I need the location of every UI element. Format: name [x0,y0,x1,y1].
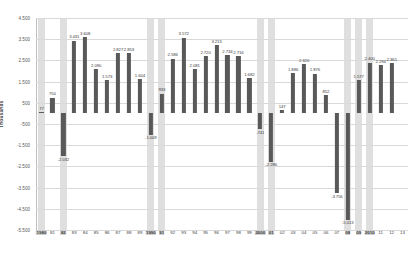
bar-group: -2.032 [58,18,69,230]
bar [335,113,339,193]
bar-group: 147 [277,18,288,230]
x-axis-tick-label: 09 [356,230,362,235]
bar [193,69,197,113]
bar-value-label: -2.286 [265,162,277,167]
y-axis-tick-label: -2.500 [0,164,30,169]
bar-group: 1.886 [288,18,299,230]
x-axis-tick-label: 07 [334,230,339,235]
x-axis-tick-label: 86 [105,230,110,235]
bar-group: 2.734 [222,18,233,230]
bar-group: -741 [255,18,266,230]
x-axis-tick-label: 92 [170,230,175,235]
bar-group: -2.286 [266,18,277,230]
bar-group: 3.608 [80,18,91,230]
bar-group: 3.213 [211,18,222,230]
bar-value-label: 2.720 [200,50,210,55]
bar-value-label: -2.032 [58,157,70,162]
x-axis-tick-label: 88 [127,230,132,235]
bar-group: 2.720 [200,18,211,230]
x-axis-tick-label: 08 [345,230,351,235]
x-axis-tick-label: 85 [94,230,99,235]
bar-group: 2.081 [189,18,200,230]
x-axis-tick-label: 98 [236,230,241,235]
x-axis-tick-label: 06 [323,230,328,235]
bar-value-label: 3.572 [179,31,189,36]
bar [50,98,54,114]
bar [389,63,393,113]
x-axis-tick-label: 03 [291,230,296,235]
bar-value-label: 2.586 [168,52,178,57]
x-axis-tick-label: 1980 [36,230,47,235]
bar-group: -5.013 [342,18,353,230]
bar [149,113,153,134]
bar-group: 2.827 [113,18,124,230]
bar [291,73,295,113]
bar-value-label: 2.734 [222,49,232,54]
bar [368,63,372,114]
bar-group: 852 [320,18,331,230]
bar [105,80,109,113]
bar-group: 2.090 [91,18,102,230]
bar-group: 750 [47,18,58,230]
bar-group: 2.320 [299,18,310,230]
bar-group: 933 [156,18,167,230]
bar-value-label: 2.294 [376,59,386,64]
bar [61,113,65,156]
bar-value-label: 147 [279,104,286,109]
bar-value-label: -5.013 [342,220,354,225]
bar [182,38,186,114]
bar-value-label: 2.365 [386,57,396,62]
bar-value-label: 2.090 [91,63,101,68]
x-axis-tick-label: 87 [116,230,121,235]
bar-value-label: 3.213 [211,39,221,44]
x-axis-tick-label: 02 [280,230,285,235]
y-axis-title: Thousands [0,101,4,128]
x-axis-tick-label: 1990 [146,230,157,235]
bar-value-label: 852 [323,89,330,94]
bar-group: 1.573 [102,18,113,230]
bar-group: 2.586 [167,18,178,230]
bar-group: 77 [36,18,47,230]
x-axis-tick-label: 93 [181,230,186,235]
bar-value-label: 2.320 [299,58,309,63]
bar-chart: 4.5003.5002.5001.500500-500-1.500-2.500-… [0,0,419,257]
bar-value-label: 1.682 [244,72,254,77]
bar-group: -1.009 [145,18,156,230]
bar-group: 1.682 [244,18,255,230]
y-axis-tick-label: -3.500 [0,185,30,190]
x-axis-tick-label: 94 [192,230,197,235]
x-axis-tick-label: 11 [378,230,383,235]
bar-value-label: 1.876 [310,67,320,72]
bar [280,110,284,113]
x-axis-tick-label: 84 [83,230,88,235]
bar [346,113,350,219]
bar-value-label: 1.604 [135,73,145,78]
bar-value-label: 3.431 [69,34,79,39]
bar [160,94,164,114]
bar-group: 3.572 [178,18,189,230]
bar [171,59,175,114]
y-axis-labels: 4.5003.5002.5001.500500-500-1.500-2.500-… [0,18,33,230]
x-axis-tick-label: 99 [247,230,252,235]
bar-group: 1.876 [310,18,321,230]
bar [225,55,229,113]
x-axis-tick-label: 12 [389,230,394,235]
bar-value-label: 3.608 [80,31,90,36]
bar [39,112,43,114]
bar [324,95,328,113]
x-axis-tick-label: 01 [268,230,274,235]
y-axis-tick-label: 4.500 [0,16,30,21]
bar-group: 2.716 [233,18,244,230]
y-axis-tick-label: -4.500 [0,206,30,211]
y-axis-tick-label: 3.500 [0,37,30,42]
bar-value-label: -741 [256,130,264,135]
bar-group: 2.365 [386,18,397,230]
bar-value-label: 2.081 [190,63,200,68]
y-axis-tick-label: -500 [0,122,30,127]
bar-value-label: -3.756 [331,194,343,199]
bar [138,79,142,113]
bar-value-label: 2.400 [365,56,375,61]
bar-group: 1.577 [353,18,364,230]
bar-group: -3.756 [331,18,342,230]
bar [203,56,207,114]
